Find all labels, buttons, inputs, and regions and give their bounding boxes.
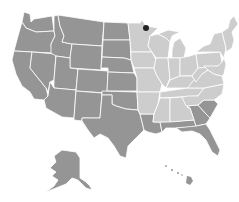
state-ks[interactable] [107, 72, 137, 91]
state-nd[interactable] [103, 22, 130, 40]
state-co[interactable] [76, 69, 108, 93]
us-map [0, 0, 239, 202]
state-fl[interactable] [176, 124, 220, 156]
state-mt[interactable] [58, 15, 104, 46]
region-light [128, 16, 238, 122]
state-nm[interactable] [74, 91, 102, 121]
state-hi[interactable] [165, 165, 193, 185]
state-ia[interactable] [131, 52, 156, 68]
state-ak[interactable] [46, 150, 92, 192]
us-map-svg [0, 0, 239, 202]
state-wy[interactable] [70, 44, 102, 70]
location-marker[interactable] [143, 25, 149, 31]
